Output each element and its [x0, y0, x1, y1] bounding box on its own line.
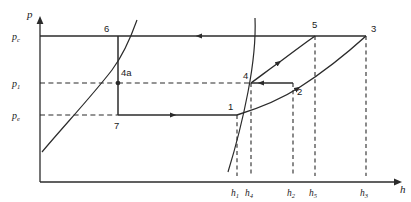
y-axis-arrowhead — [37, 16, 44, 24]
x-tick-label-h5: h5 — [309, 188, 318, 199]
y-tick-labels: pc p1 pe p — [11, 8, 33, 122]
state-label-4a: 4a — [121, 67, 132, 78]
path-4-to-5-upper — [281, 36, 315, 61]
y-tick-label-pc: pc — [11, 31, 20, 43]
process-paths — [116, 36, 366, 115]
state-label-5: 5 — [312, 19, 317, 30]
y-tick-label-p1: p1 — [11, 78, 20, 90]
enthalpy-projection-lines — [237, 36, 366, 176]
x-tick-label-h3: h3 — [360, 188, 369, 199]
saturation-dome — [42, 18, 255, 172]
x-tick-label-h1: h1 — [231, 188, 239, 199]
state-label-7: 7 — [114, 120, 119, 131]
y-tick-label-pe: pe — [11, 110, 20, 122]
x-tick-label-h4: h4 — [245, 188, 254, 199]
axis-group — [37, 16, 402, 185]
state-label-4: 4 — [243, 70, 248, 81]
state-label-1: 1 — [228, 101, 233, 112]
ph-diagram: pc p1 pe p h1 h4 h2 h5 h3 h 6 4a 7 1 4 2… — [0, 0, 411, 202]
y-axis-title: p — [26, 8, 33, 20]
x-tick-labels: h1 h4 h2 h5 h3 h — [231, 183, 406, 199]
saturated-liquid-line — [42, 20, 137, 152]
state-point-4a-marker — [116, 81, 121, 86]
path-4-to-5-lower — [251, 61, 281, 83]
path-1-to-3-upper — [300, 36, 366, 87]
state-label-6: 6 — [104, 23, 109, 34]
state-label-3: 3 — [371, 23, 376, 34]
ph-diagram-canvas: pc p1 pe p h1 h4 h2 h5 h3 h 6 4a 7 1 4 2… — [0, 0, 411, 202]
state-label-2: 2 — [297, 86, 302, 97]
x-axis-title: h — [400, 183, 406, 195]
x-tick-label-h2: h2 — [287, 188, 296, 199]
